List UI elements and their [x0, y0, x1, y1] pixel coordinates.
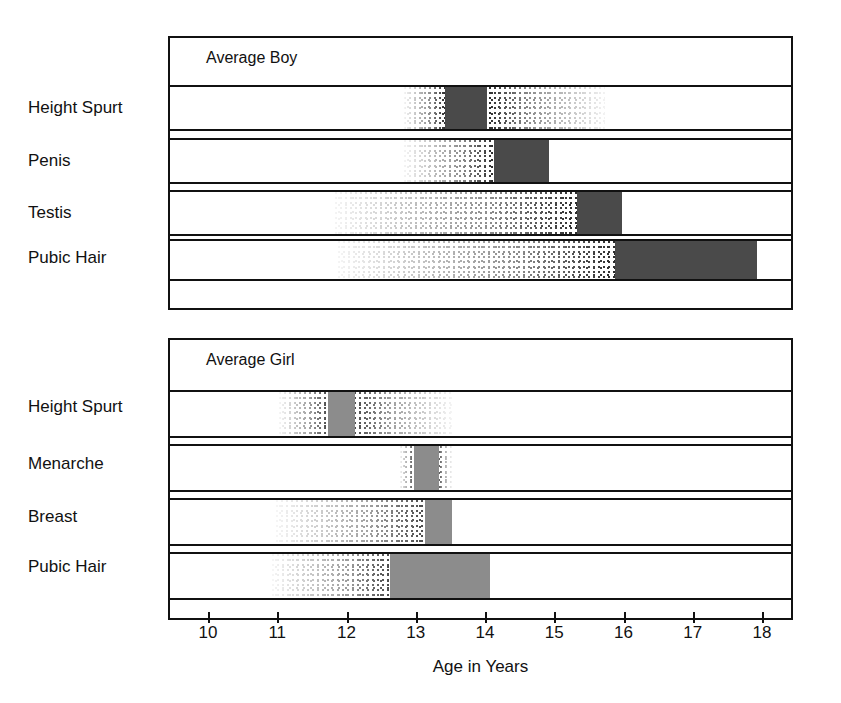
- x-axis-tick-label: 16: [614, 624, 633, 641]
- bar-stipple-range: [279, 392, 452, 436]
- row-label-girl-pubic-hair: Pubic Hair: [28, 558, 168, 575]
- x-axis-tick-label: 18: [753, 624, 772, 641]
- panel-rule: [170, 490, 791, 492]
- x-axis-tick-label: 15: [545, 624, 564, 641]
- chart-canvas: Average Boy Average Girl Height Spurt Pe…: [0, 0, 841, 703]
- row-label-girl-breast: Breast: [28, 508, 168, 525]
- row-label-boy-testis: Testis: [28, 204, 168, 221]
- x-axis-tick-label: 10: [199, 624, 218, 641]
- bar-solid-block: [615, 241, 757, 279]
- x-axis-tick: [208, 612, 210, 623]
- x-axis-tick: [693, 612, 695, 623]
- bar-solid-block: [425, 500, 453, 544]
- panel-rule: [170, 234, 791, 236]
- row-label-girl-height-spurt: Height Spurt: [28, 398, 168, 415]
- x-axis-tick: [416, 612, 418, 623]
- row-label-boy-pubic-hair: Pubic Hair: [28, 249, 168, 266]
- x-axis-tick: [485, 612, 487, 623]
- panel-rule: [170, 129, 791, 131]
- bar-solid-block: [390, 554, 490, 598]
- x-axis-tick-label: 17: [683, 624, 702, 641]
- bar-solid-block: [328, 392, 356, 436]
- panel-rule: [170, 279, 791, 281]
- x-axis-tick-label: 13: [406, 624, 425, 641]
- bar-track: [170, 446, 791, 490]
- row-label-boy-penis: Penis: [28, 152, 168, 169]
- bar-track: [170, 500, 791, 544]
- bar-track: [170, 241, 791, 279]
- panel-title-girl: Average Girl: [206, 352, 295, 368]
- bar-solid-block: [494, 140, 549, 182]
- x-axis-title: Age in Years: [168, 658, 793, 675]
- x-axis-ticks: 101112131415161718: [168, 612, 793, 642]
- bar-track: [170, 392, 791, 436]
- row-label-boy-height-spurt: Height Spurt: [28, 99, 168, 116]
- x-axis-tick: [347, 612, 349, 623]
- x-axis-tick: [277, 612, 279, 623]
- panel-rule: [170, 182, 791, 184]
- bar-track: [170, 140, 791, 182]
- x-axis-tick-label: 14: [476, 624, 495, 641]
- x-axis-tick-label: 11: [268, 624, 286, 641]
- x-axis-tick: [624, 612, 626, 623]
- panel-average-girl: Average Girl: [168, 338, 793, 620]
- x-axis-tick: [554, 612, 556, 623]
- bar-solid-block: [445, 87, 487, 129]
- panel-title-boy: Average Boy: [206, 50, 297, 66]
- bar-track: [170, 554, 791, 598]
- panel-rule: [170, 598, 791, 600]
- x-axis-tick: [762, 612, 764, 623]
- bar-solid-block: [414, 446, 438, 490]
- bar-solid-block: [577, 192, 622, 234]
- panel-average-boy: Average Boy: [168, 36, 793, 310]
- x-axis: 101112131415161718 Age in Years: [168, 612, 793, 682]
- bar-track: [170, 87, 791, 129]
- row-label-girl-menarche: Menarche: [28, 455, 168, 472]
- panel-rule: [170, 544, 791, 546]
- panel-rule: [170, 436, 791, 438]
- x-axis-tick-label: 12: [337, 624, 356, 641]
- bar-track: [170, 192, 791, 234]
- bar-stipple-range: [404, 87, 605, 129]
